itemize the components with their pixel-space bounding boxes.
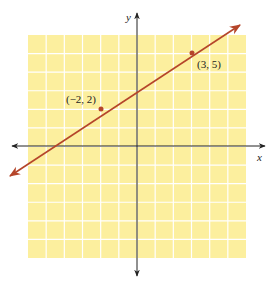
y-axis-label: y xyxy=(125,11,131,23)
coordinate-plane: x y (−2, 2) (3, 5) xyxy=(0,0,277,289)
point-label-neg2-2: (−2, 2) xyxy=(66,93,96,106)
point-label-3-5: (3, 5) xyxy=(197,58,221,71)
point-3-5 xyxy=(190,51,195,56)
x-axis-label: x xyxy=(256,151,262,163)
point-neg2-2 xyxy=(99,107,104,112)
